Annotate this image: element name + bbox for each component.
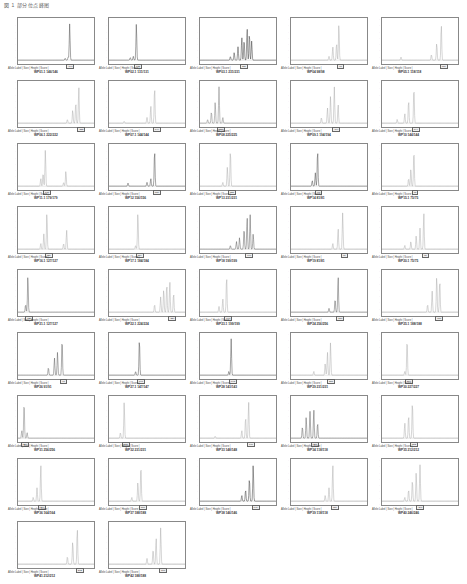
rfu-axis: -------- [372,144,380,190]
electropherogram-panel: ········--------144Allele Label | Size |… [99,77,188,140]
locus-name: WP31 256/256 [34,448,55,452]
allele-label: 146 [252,505,260,510]
rfu-axis: -------- [190,459,198,505]
rfu-axis: -------- [8,459,16,505]
locus-name: WP17.1 184/184 [125,259,149,263]
trace-plot [381,80,459,128]
locus-name: WP08 225/225 [216,133,237,137]
allele-label: 148 [247,442,255,447]
rfu-axis: -------- [99,144,107,190]
locus-name: WP15.1 75/75 [398,196,418,200]
allele-label: 194 [332,127,340,132]
trace-plot [17,143,95,191]
electropherogram-panel: ········--------98Allele Label | Size | … [281,14,370,77]
rfu-axis: -------- [99,270,107,316]
trace-plot [108,80,186,128]
trace-plot [381,17,459,65]
electropherogram-panel: ········--------222Allele Label | Size |… [8,77,97,140]
trace-plot [199,269,277,317]
locus-name: WP29 231/231 [307,385,328,389]
locus-name: WP33 148/148 [216,448,237,452]
electropherogram-panel: ········--------188Allele Label | Size |… [99,455,188,518]
rfu-axis: -------- [281,18,289,64]
trace-plot [108,332,186,380]
electropherogram-panel: ········--------131Allele Label | Size |… [99,14,188,77]
rfu-axis: -------- [190,207,198,253]
locus-name: WP40 246/246 [398,511,419,515]
locus-name: WP27.1 147/147 [125,385,149,389]
trace-plot [17,206,95,254]
locus-name: WP06.1 222/222 [34,133,58,137]
rfu-axis: -------- [281,81,289,127]
electropherogram-panel: ········--------75Allele Label | Size | … [372,203,461,266]
trace-plot [17,521,95,569]
electropherogram-panel: ········--------156Allele Label | Size |… [99,140,188,203]
allele-label: 144 [412,127,420,132]
trace-plot [381,269,459,317]
locus-name: WP39 118/118 [307,511,328,515]
electropherogram-panel: ········--------188Allele Label | Size |… [99,518,188,581]
rfu-axis: -------- [99,459,107,505]
electropherogram-panel: ········--------118Allele Label | Size |… [281,392,370,455]
allele-label: 118 [331,505,339,510]
trace-plot [199,206,277,254]
rfu-axis: -------- [190,18,198,64]
trace-plot [290,332,368,380]
trace-plot [17,269,95,317]
rfu-axis: -------- [372,207,380,253]
trace-plot [199,80,277,128]
rfu-axis: -------- [281,459,289,505]
trace-plot [108,269,186,317]
rfu-axis: -------- [372,333,380,379]
trace-plot [199,17,277,65]
electropherogram-panel: ········--------212Allele Label | Size |… [372,392,461,455]
trace-plot [17,458,95,506]
trace-plot [199,458,277,506]
rfu-axis: -------- [190,144,198,190]
electropherogram-panel: ········--------225Allele Label | Size |… [190,77,279,140]
allele-label: 118 [440,64,448,69]
rfu-axis: -------- [281,207,289,253]
allele-label: 146 [66,64,74,69]
trace-plot [290,269,368,317]
allele-label: 188 [139,505,147,510]
rfu-axis: -------- [99,522,107,568]
locus-name: WP02.1 131/131 [125,70,149,74]
electropherogram-panel: ········--------127Allele Label | Size |… [8,203,97,266]
trace-plot [290,395,368,443]
electropherogram-panel: ········--------231Allele Label | Size |… [190,140,279,203]
locus-name: WP20.1 75/75 [398,259,418,263]
rfu-axis: -------- [190,270,198,316]
trace-plot [17,395,95,443]
locus-name: WP21.1 127/127 [34,322,58,326]
trace-plot [108,521,186,569]
allele-label: 256 [336,316,344,321]
trace-plot [381,395,459,443]
trace-plot [108,17,186,65]
rfu-axis: -------- [190,81,198,127]
rfu-axis: -------- [372,18,380,64]
allele-label: 231 [240,64,248,69]
locus-name: WP16.1 127/127 [34,259,58,263]
electropherogram-panel: ········--------75Allele Label | Size | … [372,140,461,203]
allele-label: 144 [153,127,161,132]
rfu-axis: -------- [281,396,289,442]
electropherogram-panel: ········--------143Allele Label | Size |… [190,329,279,392]
electropherogram-grid: ········--------146Allele Label | Size |… [8,14,464,581]
trace-plot [381,143,459,191]
allele-label: 246 [416,505,424,510]
locus-name: WP25.1 188/188 [398,322,422,326]
allele-label: 212 [76,568,84,573]
electropherogram-panel: ········--------144Allele Label | Size |… [372,77,461,140]
locus-name: WP41 212/212 [34,574,55,578]
trace-plot [290,17,368,65]
locus-name: WP10 144/144 [398,133,419,137]
locus-name: WP07.1 144/144 [125,133,149,137]
locus-name: WP37 188/188 [125,511,146,515]
locus-name: WP14 81/81 [307,196,325,200]
allele-label: 199 [245,253,253,258]
allele-label: 91 [60,379,67,384]
trace-plot [199,143,277,191]
electropherogram-panel: ········--------148Allele Label | Size |… [190,392,279,455]
allele-label: 98 [337,64,344,69]
